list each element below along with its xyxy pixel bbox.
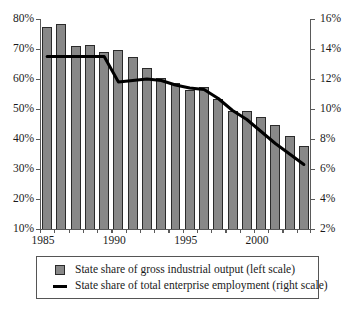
left-tick (36, 109, 41, 110)
bar-1990 (113, 50, 123, 229)
bar-1997 (213, 99, 223, 229)
left-tick-label: 60% (13, 73, 34, 85)
right-tick (310, 199, 315, 200)
bar-1996 (199, 87, 209, 229)
left-tick-label: 70% (13, 43, 34, 55)
bar-1986 (56, 24, 66, 230)
x-tick (154, 229, 155, 233)
x-tick (282, 229, 283, 233)
chart-figure: 10%20%30%40%50%60%70%80% 2%4%6%8%10%12%1… (0, 0, 355, 309)
left-tick (36, 49, 41, 50)
right-tick (310, 169, 315, 170)
line-swatch-icon (49, 285, 71, 288)
x-tick-label: 1985 (32, 235, 55, 247)
bar-1994 (171, 83, 181, 229)
right-tick (310, 109, 315, 110)
left-tick (36, 19, 41, 20)
chart-legend: State share of gross industrial output (… (36, 256, 319, 299)
left-tick-label: 40% (13, 133, 34, 145)
x-tick (211, 229, 212, 233)
bar-1992 (142, 68, 152, 229)
bar-1995 (185, 90, 195, 229)
left-tick-label: 50% (13, 103, 34, 115)
x-tick-label: 1990 (103, 235, 126, 247)
bar-1987 (71, 46, 81, 229)
right-tick (310, 139, 315, 140)
bar-2001 (270, 125, 280, 229)
bar-1985 (42, 27, 52, 230)
right-tick-label: 14% (320, 43, 341, 55)
left-tick (36, 199, 41, 200)
x-tick (111, 229, 112, 233)
x-tick (168, 229, 169, 233)
plot-area: 10%20%30%40%50%60%70%80% 2%4%6%8%10%12%1… (40, 19, 311, 229)
bar-2002 (285, 136, 295, 229)
left-tick-label: 30% (13, 163, 34, 175)
x-tick (197, 229, 198, 233)
left-tick-label: 80% (13, 13, 34, 25)
right-tick-label: 2% (320, 223, 335, 235)
bar-2000 (256, 117, 266, 229)
left-tick (36, 169, 41, 170)
bar-1989 (99, 52, 109, 229)
x-tick (69, 229, 70, 233)
x-tick (54, 229, 55, 233)
right-tick-label: 12% (320, 73, 341, 85)
x-axis-line (40, 229, 311, 230)
right-tick (310, 19, 315, 20)
x-tick-label: 2000 (245, 235, 268, 247)
right-tick-label: 6% (320, 163, 335, 175)
x-tick (254, 229, 255, 233)
x-tick (83, 229, 84, 233)
x-tick-label: 1995 (174, 235, 197, 247)
x-tick (97, 229, 98, 233)
left-tick (36, 79, 41, 80)
left-tick (36, 139, 41, 140)
right-tick-label: 8% (320, 133, 335, 145)
right-tick-label: 16% (320, 13, 341, 25)
x-tick (297, 229, 298, 233)
right-tick-label: 10% (320, 103, 341, 115)
x-tick (140, 229, 141, 233)
bar-1988 (85, 45, 95, 229)
x-tick (310, 229, 311, 233)
x-tick (268, 229, 269, 233)
bar-1999 (242, 111, 252, 229)
legend-item-employment: State share of total enterprise employme… (37, 278, 318, 294)
x-tick (183, 229, 184, 233)
x-tick (40, 229, 41, 233)
bar-1993 (156, 78, 166, 229)
x-tick (225, 229, 226, 233)
right-tick (310, 79, 315, 80)
bar-1991 (128, 57, 138, 229)
legend-label-output: State share of gross industrial output (… (71, 264, 295, 276)
x-tick (240, 229, 241, 233)
right-tick-label: 4% (320, 193, 335, 205)
legend-item-output: State share of gross industrial output (… (37, 262, 318, 278)
bar-swatch-icon (49, 265, 71, 275)
right-tick (310, 49, 315, 50)
legend-label-employment: State share of total enterprise employme… (71, 280, 328, 292)
left-tick-label: 20% (13, 193, 34, 205)
x-tick (126, 229, 127, 233)
bar-1998 (228, 111, 238, 229)
bar-2003 (299, 146, 309, 229)
